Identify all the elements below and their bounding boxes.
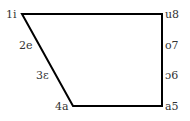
label-top-right: u8 <box>165 8 179 21</box>
label-right-upper: o7 <box>165 39 179 52</box>
label-left-lower: 3ε <box>36 69 49 82</box>
label-left-upper: 2e <box>19 39 33 52</box>
label-top-left: 1i <box>6 8 17 21</box>
label-right-lower: ɔ6 <box>165 69 178 82</box>
label-bottom-left: 4a <box>55 100 69 113</box>
label-bottom-right: a5 <box>165 100 179 113</box>
quadrilateral-diagram: 1i 2e 3ε 4a u8 o7 ɔ6 a5 <box>0 0 190 121</box>
quadrilateral-shape <box>22 14 162 106</box>
